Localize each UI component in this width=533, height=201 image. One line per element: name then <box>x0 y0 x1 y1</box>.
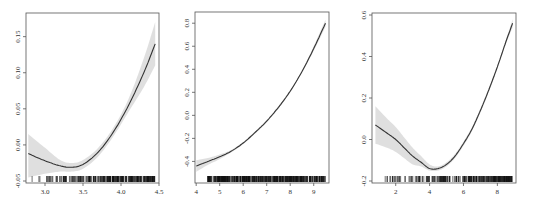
confidence-band <box>28 22 155 177</box>
x-tick-label: 8 <box>496 188 500 196</box>
rug-marks <box>385 176 512 182</box>
fitted-curve <box>196 23 325 166</box>
x-tick-label: 4 <box>194 188 198 196</box>
x-tick-label: 7 <box>265 188 269 196</box>
y-tick-label: -0.2 <box>183 132 191 144</box>
x-tick-label: 8 <box>288 188 292 196</box>
y-tick-label: 0.6 <box>360 10 368 19</box>
y-tick-label: 0.0 <box>183 110 191 119</box>
x-tick-label: 9 <box>312 188 316 196</box>
y-tick-label: 0.00 <box>14 138 22 151</box>
x-tick-label: 4.5 <box>155 188 164 196</box>
y-tick-label: 0.8 <box>183 18 191 27</box>
y-tick-label: 0.6 <box>183 41 191 50</box>
x-tick-label: 3.0 <box>41 188 50 196</box>
y-tick-label: -0.2 <box>360 175 368 187</box>
y-tick-label: 0.4 <box>360 52 368 61</box>
y-tick-label: 0.4 <box>183 64 191 73</box>
panel-1: 3.03.54.04.5-0.050.000.050.100.15 <box>14 13 164 196</box>
x-tick-label: 3.5 <box>79 188 88 196</box>
panel-2: 456789-0.4-0.20.00.20.40.60.8 <box>183 12 329 196</box>
y-tick-label: 0.0 <box>360 135 368 144</box>
fitted-curve <box>28 44 155 167</box>
x-tick-label: 6 <box>462 188 466 196</box>
y-tick-label: 0.2 <box>360 93 368 102</box>
y-tick-label: -0.05 <box>14 173 22 188</box>
confidence-band <box>375 19 512 171</box>
y-tick-label: 0.2 <box>183 87 191 96</box>
x-tick-label: 5 <box>218 188 222 196</box>
y-tick-label: 0.10 <box>14 66 22 79</box>
x-tick-label: 6 <box>241 188 245 196</box>
x-tick-label: 4 <box>428 188 432 196</box>
y-tick-label: 0.05 <box>14 102 22 115</box>
plot-frame <box>372 13 516 183</box>
x-tick-label: 2 <box>394 188 398 196</box>
rug-marks <box>208 176 325 182</box>
confidence-band <box>196 20 325 172</box>
x-tick-label: 4.0 <box>117 188 126 196</box>
y-tick-label: -0.4 <box>183 155 191 167</box>
panel-3: 2468-0.20.00.20.40.6 <box>360 10 516 196</box>
y-tick-label: 0.15 <box>14 30 22 43</box>
figure: 3.03.54.04.5-0.050.000.050.100.15 456789… <box>0 0 533 201</box>
rug-marks <box>32 176 155 182</box>
